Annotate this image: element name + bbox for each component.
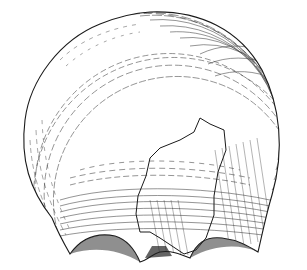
right-orbit: [190, 238, 258, 258]
fragment-outline: [136, 118, 226, 254]
illustration-canvas: [0, 0, 307, 270]
skull-cap-drawing: [0, 0, 307, 270]
left-orbit: [70, 235, 140, 262]
nasal-notch: [145, 246, 172, 258]
